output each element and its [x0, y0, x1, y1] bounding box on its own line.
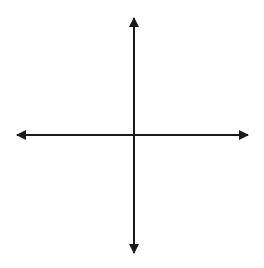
coordinate-plane — [0, 0, 264, 268]
axes — [17, 18, 248, 253]
